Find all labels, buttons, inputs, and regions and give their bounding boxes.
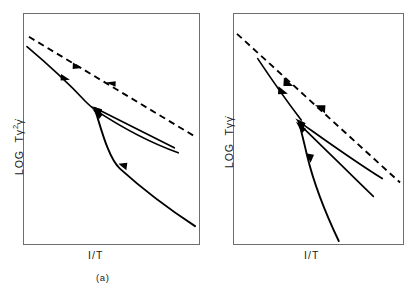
plot-frame-b	[233, 13, 404, 245]
dashed-arrow-right-b	[283, 77, 293, 85]
y-axis-label-b-prefix: LOG	[223, 143, 235, 168]
y-axis-label-a-exponent: 2	[11, 125, 20, 129]
plot-frame-a	[23, 13, 200, 245]
dashed-arrow-right-a	[73, 63, 82, 69]
y-axis-label-a-variable: T	[13, 135, 25, 142]
y-axis-label-b-variable: T	[223, 128, 235, 135]
panel-a: LOG Tγ2γ̇ I/T (a)	[0, 0, 208, 297]
y-axis-label-b-gammadot: γ̇	[223, 116, 235, 122]
dashed-arrow-left-b	[315, 105, 325, 113]
plot-area-a	[24, 14, 199, 244]
y-axis-label-a-gamma: γ	[13, 129, 25, 135]
y-axis-label-a-gammadot: γ̇	[13, 119, 25, 125]
figure-canvas: LOG Tγ2γ̇ I/T (a)	[0, 0, 416, 297]
y-axis-label-b: LOG Tγγ̇	[221, 116, 235, 168]
lower-solid-branch-b	[299, 122, 339, 241]
upper-branch-arrow-a	[61, 74, 70, 80]
upper-branch-arrow-b	[278, 86, 288, 94]
y-axis-label-b-gamma: γ	[223, 122, 235, 128]
panel-caption-a: (a)	[96, 272, 109, 283]
y-axis-label-a-prefix: LOG	[13, 150, 25, 175]
x-axis-label-b: I/T	[304, 249, 320, 261]
x-axis-label-a: I/T	[88, 249, 104, 261]
panel-b: LOG Tγγ̇ I/T (b)	[208, 0, 416, 297]
loop-upper-return-a	[95, 108, 175, 148]
y-axis-label-a: LOG Tγ2γ̇	[11, 119, 25, 175]
equilibrium-dashed-line-b	[237, 34, 400, 183]
plot-area-b	[234, 14, 403, 244]
